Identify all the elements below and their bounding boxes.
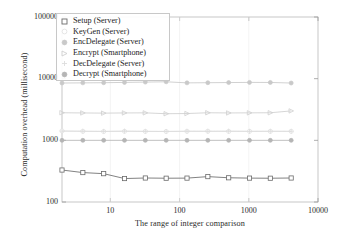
chart-legend: Setup (Server) KeyGen (Server) EncDelega… <box>56 13 170 81</box>
legend-item-label: DecDelegate (Server) <box>73 59 144 69</box>
legend-item-label: KeyGen (Server) <box>73 27 129 37</box>
square-open-marker-icon <box>60 17 69 26</box>
legend-item: EncDelegate (Server) <box>60 37 169 48</box>
chart-figure: Computation overhead (millisecond) The r… <box>0 0 348 242</box>
x-tick-label: 10000 <box>298 206 338 215</box>
legend-item: KeyGen (Server) <box>60 27 169 38</box>
y-tick-label: 1000 <box>14 135 58 144</box>
x-tick-label: 1000 <box>229 206 269 215</box>
legend-item-label: Decrypt (Smartphone) <box>73 69 146 79</box>
legend-item-label: Setup (Server) <box>73 16 121 26</box>
plus-marker-icon <box>60 59 69 68</box>
series-encrypt-smartphone <box>60 109 294 116</box>
x-tick-label: 100 <box>160 206 200 215</box>
y-tick-label: 100000 <box>14 12 58 21</box>
triangle-open-marker-icon <box>60 49 69 58</box>
circle-filled-marker-icon <box>60 38 69 47</box>
legend-item: Encrypt (Smartphone) <box>60 48 169 59</box>
legend-item-label: Encrypt (Smartphone) <box>73 48 146 58</box>
circle-filled-marker-icon <box>60 70 69 79</box>
legend-item: Decrypt (Smartphone) <box>60 69 169 80</box>
x-axis-title: The range of integer comparison <box>62 219 318 228</box>
series-setup-server <box>60 168 293 181</box>
y-tick-label: 10000 <box>14 73 58 82</box>
circle-open-marker-icon <box>60 27 69 36</box>
legend-item: DecDelegate (Server) <box>60 58 169 69</box>
legend-item: Setup (Server) <box>60 16 169 27</box>
legend-item-label: EncDelegate (Server) <box>73 37 144 47</box>
y-axis-title: Computation overhead (millisecond) <box>20 45 29 185</box>
x-tick-label: 10 <box>90 206 130 215</box>
series-decrypt-smartphone <box>60 138 293 142</box>
y-tick-label: 100 <box>14 197 58 206</box>
series-decdelegate-server <box>60 129 294 134</box>
